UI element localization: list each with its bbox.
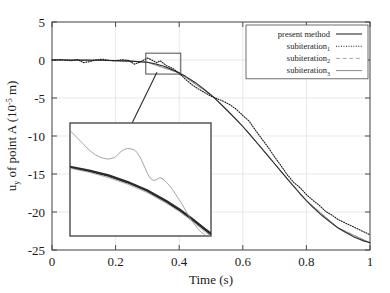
xtick-label: 0 xyxy=(49,254,56,269)
ytick-label: -15 xyxy=(28,167,45,182)
legend-label: present method xyxy=(278,29,331,39)
xtick-label: 0.8 xyxy=(298,254,314,269)
ytick-label: -10 xyxy=(28,129,45,144)
xtick-label: 1 xyxy=(367,254,374,269)
legend-label: subiteration3 xyxy=(287,65,330,77)
ytick-label: -5 xyxy=(34,91,45,106)
inset-plot xyxy=(70,123,211,237)
y-axis-title: uy of point A (10-5 m) xyxy=(4,81,21,192)
xtick-label: 0.2 xyxy=(107,254,123,269)
ytick-label: -25 xyxy=(28,243,45,258)
ytick-label: -20 xyxy=(28,205,45,220)
legend-label: subiteration2 xyxy=(287,53,330,65)
xtick-label: 0.6 xyxy=(235,254,252,269)
ytick-label: 0 xyxy=(39,53,46,68)
xtick-label: 0.4 xyxy=(171,254,188,269)
figure-container: 00.20.40.60.8150-5-10-15-20-25 Time (s)u… xyxy=(0,0,390,293)
svg-text:uy of point A (10-5 m): uy of point A (10-5 m) xyxy=(4,81,21,192)
x-axis-title: Time (s) xyxy=(189,272,233,287)
ytick-label: 5 xyxy=(39,15,46,30)
legend: present methodsubiteration1subiteration2… xyxy=(246,25,368,79)
legend-label: subiteration1 xyxy=(287,41,330,53)
line-chart: 00.20.40.60.8150-5-10-15-20-25 Time (s)u… xyxy=(0,0,390,293)
